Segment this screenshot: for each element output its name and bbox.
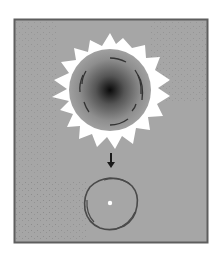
diagram-canvas xyxy=(0,0,221,257)
remnant-core xyxy=(108,201,112,205)
star-core xyxy=(69,49,151,131)
